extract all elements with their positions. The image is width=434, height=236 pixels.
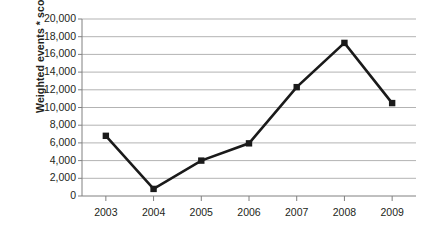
data-point-marker [246,140,252,146]
y-axis-tick-label: 18,000 [22,30,76,42]
y-axis-tick-labels: 02,0004,0006,0008,00010,00012,00014,0001… [20,0,76,236]
x-axis-tick-label: 2009 [364,206,420,218]
y-axis-tick-label: 4,000 [22,154,76,166]
data-point-marker [150,186,156,192]
data-point-marker [389,100,395,106]
y-axis-tick-label: 14,000 [22,65,76,77]
data-markers [103,40,396,192]
y-axis-ticks [78,19,82,196]
y-axis-tick-label: 10,000 [22,101,76,113]
data-point-marker [341,40,347,46]
y-axis-tick-label: 16,000 [22,47,76,59]
line-chart: Weighted events * scope 02,0004,0006,000… [0,0,434,236]
data-point-marker [198,157,204,163]
y-axis-tick-label: 6,000 [22,136,76,148]
y-axis-tick-label: 2,000 [22,171,76,183]
y-axis-tick-label: 20,000 [22,12,76,24]
data-line [106,43,392,189]
gridlines [82,19,416,178]
y-axis-tick-label: 0 [22,189,76,201]
y-axis-tick-label: 8,000 [22,118,76,130]
x-axis-ticks [106,196,392,201]
data-point-marker [103,133,109,139]
y-axis-tick-label: 12,000 [22,83,76,95]
data-point-marker [294,84,300,90]
